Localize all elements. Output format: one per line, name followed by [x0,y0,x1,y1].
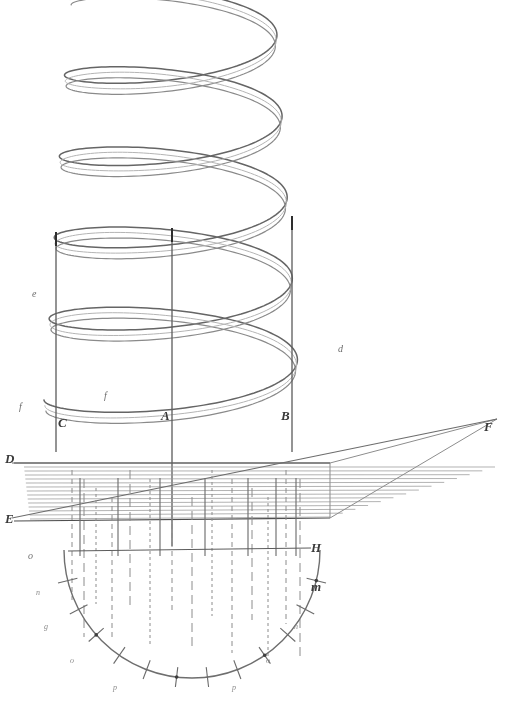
label-plane-d: D [5,452,14,465]
arc-node-dot [175,675,179,679]
label-helix-e-left: e [32,289,36,299]
label-tick-label-2: g [44,623,48,631]
label-helix-f-mid: f [104,391,107,401]
label-ray-f: F [484,420,493,433]
label-helix-d-right: d [338,344,343,354]
label-tick-label-1: n [36,589,40,597]
label-tick-label-6: o [266,657,270,665]
figure-background [0,0,515,707]
technical-drawing-svg [0,0,515,707]
label-chord-h: H [311,541,321,554]
label-axis-a: A [161,409,170,422]
plane-hatch-line [26,482,444,483]
label-arc-marker-o: o [28,551,33,561]
label-tick-label-4: p [113,684,117,692]
label-axis-b: B [281,409,290,422]
label-tick-label-7: n [294,623,298,631]
arc-node-dot [94,633,98,637]
figure-canvas: CABDEFHmedffongoppon [0,0,515,707]
label-axis-c: C [58,416,67,429]
label-tick-label-3: o [70,657,74,665]
label-plane-e: E [5,512,14,525]
label-arc-m: m [311,580,321,593]
label-tick-label-5: p [232,684,236,692]
label-helix-f-left: f [19,402,22,412]
